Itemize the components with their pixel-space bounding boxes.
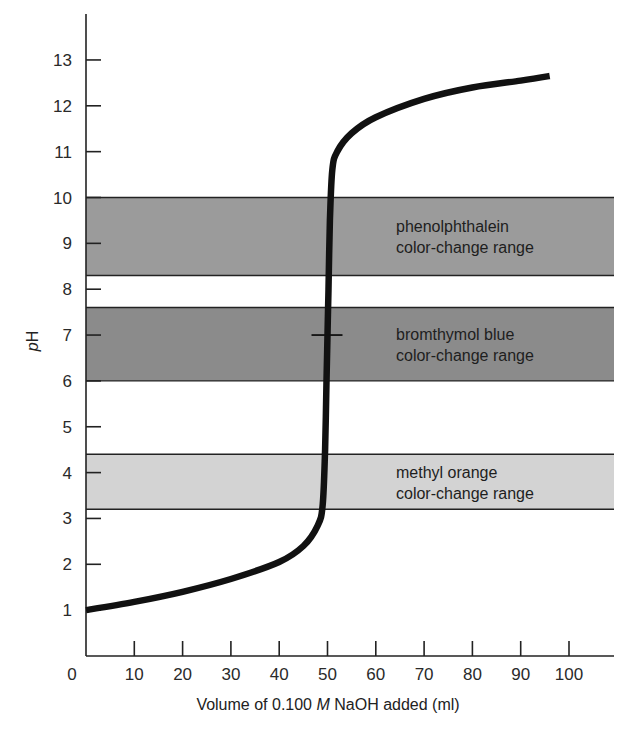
y-tick-label: 1 (63, 601, 72, 620)
y-tick-label: 6 (63, 372, 72, 391)
titration-chart: phenolphthaleincolor-change rangebromthy… (0, 0, 639, 740)
band-bromthymol-blue (86, 308, 614, 381)
x-tick-label: 0 (67, 665, 76, 684)
y-tick-label: 11 (54, 143, 72, 162)
band-label-phenolphthalein-line1: phenolphthalein (396, 218, 509, 235)
y-tick-label: 10 (53, 189, 72, 208)
band-label-phenolphthalein-line2: color-change range (396, 239, 534, 256)
x-tick-label: 40 (270, 665, 289, 684)
x-tick-label: 30 (221, 665, 240, 684)
y-tick-label: 7 (63, 326, 72, 345)
x-tick-label: 50 (318, 665, 337, 684)
x-tick-label: 80 (463, 665, 482, 684)
x-tick-label: 10 (125, 665, 144, 684)
band-label-methyl-orange-line1: methyl orange (396, 464, 497, 481)
indicator-bands (86, 198, 614, 510)
y-tick-label: 4 (63, 464, 72, 483)
x-tick-label: 20 (173, 665, 192, 684)
band-label-methyl-orange-line2: color-change range (396, 485, 534, 502)
band-label-bromthymol-blue-line1: bromthymol blue (396, 326, 514, 343)
band-methyl-orange (86, 454, 614, 509)
x-axis-title: Volume of 0.100 M NaOH added (ml) (196, 696, 459, 713)
y-tick-label: 9 (63, 234, 72, 253)
x-tick-label: 90 (511, 665, 530, 684)
y-axis-title: pH (24, 331, 41, 352)
x-tick-label: 60 (366, 665, 385, 684)
y-tick-label: 13 (53, 51, 72, 70)
y-tick-label: 12 (53, 97, 72, 116)
y-ticks: 12345678910111213 (53, 51, 101, 620)
x-tick-label: 100 (555, 665, 583, 684)
y-tick-label: 3 (63, 509, 72, 528)
y-tick-label: 2 (63, 555, 72, 574)
x-tick-label: 70 (415, 665, 434, 684)
band-phenolphthalein (86, 198, 614, 276)
x-ticks: 0102030405060708090100 (67, 641, 583, 684)
band-label-bromthymol-blue-line2: color-change range (396, 347, 534, 364)
y-tick-label: 8 (63, 280, 72, 299)
y-tick-label: 5 (63, 418, 72, 437)
